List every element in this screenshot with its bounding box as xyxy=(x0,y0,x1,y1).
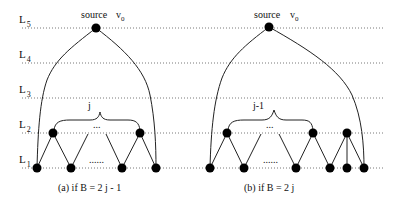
panel-b-caption: (b) if B = 2 j xyxy=(244,182,294,194)
panel-b-l2-node xyxy=(343,129,352,138)
panel-a-edge xyxy=(106,134,122,168)
panel-b-source-node xyxy=(265,23,274,32)
level-lines xyxy=(22,28,383,168)
level-label-3: L3 xyxy=(19,83,31,99)
panel-b-edge xyxy=(347,133,364,168)
panel-a-ellipsis-bottom: ...... xyxy=(89,154,104,165)
level-labels: L5 L4 L3 L2 L1 xyxy=(19,13,31,169)
panel-b-l1-node xyxy=(292,164,301,173)
diagram-canvas: L5 L4 L3 L2 L1 source v0 j ... ...... xyxy=(0,0,400,202)
panel-a-edge xyxy=(122,133,140,168)
panel-a-source-label: source xyxy=(81,9,108,20)
panel-b-edge xyxy=(296,133,313,168)
panel-b: source v0 j-1 ... ...... (b) if B = 2 j xyxy=(206,9,369,194)
panel-a-edge xyxy=(71,134,88,168)
panel-b-source-label: source xyxy=(254,9,281,20)
level-label-1: L1 xyxy=(19,153,31,169)
panel-a-edge xyxy=(140,133,156,168)
panel-b-source-var: v0 xyxy=(290,9,299,23)
panel-b-l2-node xyxy=(223,129,232,138)
panel-b-edge xyxy=(210,133,227,168)
panel-a-source-var: v0 xyxy=(116,9,125,23)
panel-b-edge-source-left xyxy=(210,27,269,168)
panel-a-l1-node xyxy=(118,164,127,173)
panel-b-ellipsis-top: ... xyxy=(266,119,274,130)
panel-a-edge-source-left xyxy=(37,28,96,168)
panel-a-l2-node xyxy=(49,129,58,138)
level-label-5: L5 xyxy=(19,13,31,29)
panel-b-ellipsis-bottom: ...... xyxy=(263,154,278,165)
panel-b-l2-node xyxy=(309,129,318,138)
level-label-2: L2 xyxy=(19,118,31,134)
panel-a-brace-label: j xyxy=(87,100,91,111)
panel-b-edge xyxy=(244,134,261,168)
level-label-4: L4 xyxy=(19,48,31,64)
panel-b-l1-node xyxy=(343,164,352,173)
panel-b-edge-source-right xyxy=(269,27,364,168)
panel-a-source-node xyxy=(92,24,101,33)
panel-b-l1-node xyxy=(360,164,369,173)
panel-a: source v0 j ... ...... (a) if B = 2 j - … xyxy=(33,9,161,194)
panel-a-l1-node xyxy=(152,164,161,173)
panel-b-l1-node xyxy=(240,164,249,173)
panel-a-edge-source-right xyxy=(96,28,156,168)
panel-a-ellipsis-top: ... xyxy=(93,119,101,130)
panel-a-l1-node xyxy=(33,164,42,173)
panel-a-edge xyxy=(53,133,71,168)
panel-a-l2-node xyxy=(136,129,145,138)
panel-a-caption: (a) if B = 2 j - 1 xyxy=(58,182,121,194)
panel-b-edge xyxy=(279,134,296,168)
panel-b-l1-node xyxy=(206,164,215,173)
panel-a-l1-node xyxy=(67,164,76,173)
panel-b-edge xyxy=(313,133,330,168)
panel-a-edge xyxy=(37,133,53,168)
panel-b-edge xyxy=(330,133,347,168)
panel-b-l1-node xyxy=(326,164,335,173)
panel-b-brace-label: j-1 xyxy=(252,100,264,111)
panel-b-edge xyxy=(227,133,244,168)
